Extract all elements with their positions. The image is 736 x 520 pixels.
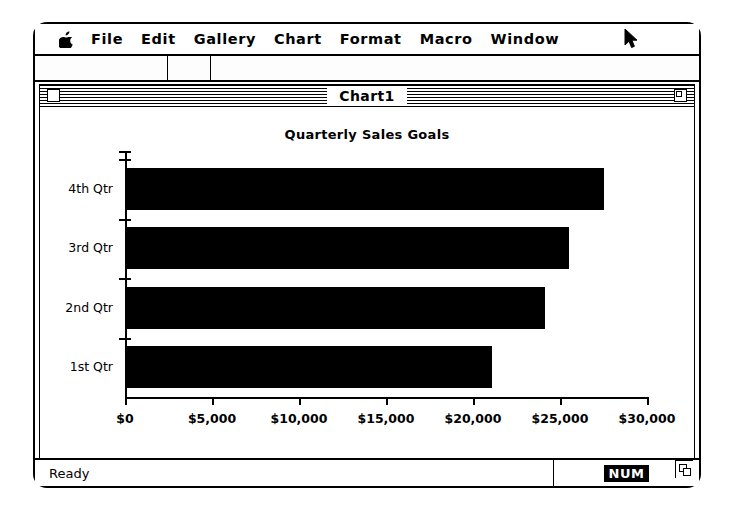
close-box-icon[interactable]: [47, 89, 60, 102]
plot-area: 1st Qtr2nd Qtr3rd Qtr4th Qtr$0$5,000$10,…: [125, 159, 647, 397]
y-axis-tick: [119, 219, 131, 221]
toolbar-divider-1: [167, 56, 168, 80]
apple-menu[interactable]: [35, 31, 82, 48]
grow-box-square-front: [683, 468, 691, 476]
chart-title: Quarterly Sales Goals: [40, 127, 694, 142]
x-axis-label: $15,000: [358, 411, 415, 426]
window-title: Chart1: [327, 87, 406, 105]
toolbar-divider-2: [210, 56, 211, 80]
bar-2nd-qtr[interactable]: [127, 287, 545, 329]
y-axis-tick: [119, 159, 131, 161]
menu-item-format[interactable]: Format: [331, 32, 411, 47]
x-axis-label: $20,000: [445, 411, 502, 426]
menu-item-window[interactable]: Window: [482, 32, 569, 47]
menu-item-edit[interactable]: Edit: [132, 32, 185, 47]
bar-3rd-qtr[interactable]: [127, 227, 569, 269]
x-axis-label: $10,000: [271, 411, 328, 426]
chart-canvas: Quarterly Sales Goals 1st Qtr2nd Qtr3rd …: [40, 107, 694, 479]
screen: File Edit Gallery Chart Format Macro Win…: [0, 0, 736, 520]
grow-box-icon[interactable]: [675, 460, 693, 478]
y-axis-label-1st-qtr: 1st Qtr: [43, 359, 113, 374]
zoom-box-icon[interactable]: [674, 89, 687, 102]
y-axis-tick: [119, 151, 131, 153]
x-axis-label: $5,000: [188, 411, 236, 426]
menu-item-file[interactable]: File: [82, 32, 132, 47]
window-title-bar[interactable]: Chart1: [40, 85, 694, 107]
menu-item-chart[interactable]: Chart: [265, 32, 331, 47]
status-badge-num: NUM: [604, 465, 650, 482]
application-window: File Edit Gallery Chart Format Macro Win…: [33, 22, 701, 488]
bar-4th-qtr[interactable]: [127, 168, 604, 210]
y-axis-label-3rd-qtr: 3rd Qtr: [43, 240, 113, 255]
x-axis-label: $30,000: [619, 411, 676, 426]
y-axis-tick: [119, 278, 131, 280]
x-axis-tick: [386, 397, 388, 405]
y-axis-tick: [119, 338, 131, 340]
x-axis-tick: [560, 397, 562, 405]
x-axis-tick: [647, 397, 649, 405]
mouse-pointer-arrow-icon: [624, 28, 640, 50]
status-bar: Ready NUM: [35, 458, 699, 486]
x-axis-tick: [125, 397, 127, 405]
y-axis-label-4th-qtr: 4th Qtr: [43, 181, 113, 196]
x-axis-label: $25,000: [532, 411, 589, 426]
menu-bar: File Edit Gallery Chart Format Macro Win…: [35, 24, 699, 56]
y-axis-label-2nd-qtr: 2nd Qtr: [43, 300, 113, 315]
x-axis-label: $0: [116, 411, 133, 426]
document-window: Chart1 Quarterly Sales Goals 1st Qtr2nd …: [39, 84, 695, 480]
menu-item-gallery[interactable]: Gallery: [185, 32, 265, 47]
toolbar-strip: [35, 56, 699, 82]
x-axis-tick: [473, 397, 475, 405]
apple-logo-icon: [59, 31, 74, 48]
bar-1st-qtr[interactable]: [127, 346, 492, 388]
menu-item-macro[interactable]: Macro: [411, 32, 482, 47]
status-message: Ready: [35, 466, 553, 481]
x-axis-tick: [299, 397, 301, 405]
x-axis-tick: [212, 397, 214, 405]
